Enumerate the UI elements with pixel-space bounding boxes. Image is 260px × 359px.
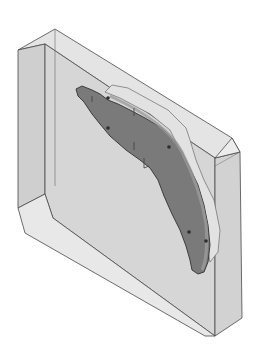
hole-icon bbox=[106, 96, 110, 100]
block-left-face bbox=[18, 44, 45, 208]
hole-icon bbox=[187, 230, 191, 234]
mold-block bbox=[18, 29, 242, 336]
cad-scene bbox=[0, 0, 260, 359]
hole-icon bbox=[106, 126, 110, 130]
hole-icon bbox=[167, 145, 171, 149]
mold-block-render bbox=[0, 0, 260, 359]
hole-icon bbox=[204, 239, 208, 243]
